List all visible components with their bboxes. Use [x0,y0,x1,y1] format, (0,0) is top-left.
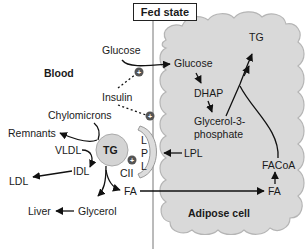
insulin-label: Insulin [102,91,132,103]
adipose-fa-label: FA [268,185,281,197]
remnants-arrow [60,133,97,141]
facoa-label: FACoA [262,159,295,171]
insulin-dotted-line-lower [118,105,146,115]
fed-state-title: Fed state [133,3,197,21]
ldl-label: LDL [9,175,28,187]
svg-text:+: + [148,113,152,120]
glycerol-label: Glycerol [78,205,117,217]
fed-state-diagram: + + + F [0,0,308,249]
tg-lipoprotein-label: TG [103,144,118,156]
liver-label: Liver [28,205,51,217]
blood-fa-label: FA [124,185,137,197]
tg-to-fa-arrow [106,170,120,190]
insulin-dotted-line-upper [118,74,136,88]
cii-label: CII [120,167,133,179]
lpl-letter-2: P [141,147,148,159]
g3p-label-line1: Glycerol-3- [194,115,245,127]
svg-text:+: + [130,157,134,164]
chylomicrons-label: Chylomicrons [48,109,112,121]
chylomicrons-arrow [94,123,99,140]
adipose-cell-label: Adipose cell [188,207,250,219]
adipose-tg-label: TG [249,31,264,43]
idl-label: IDL [73,165,89,177]
vldl-label: VLDL [55,144,81,156]
blood-region-label: Blood [44,67,74,79]
adipose-lpl-label: LPL [184,147,203,159]
tg-to-glycerol-arrow [98,166,106,196]
g3p-label-line2: phosphate [194,128,243,140]
lpl-letter-1: L [141,134,147,146]
blood-glucose-label: Glucose [102,44,141,56]
svg-text:+: + [137,69,141,76]
adipose-glucose-label: Glucose [174,57,213,69]
idl-to-ldl-arrow [33,171,72,177]
lpl-letter-3: L [141,160,147,172]
dhap-label: DHAP [194,87,223,99]
remnants-label: Remnants [8,127,56,139]
